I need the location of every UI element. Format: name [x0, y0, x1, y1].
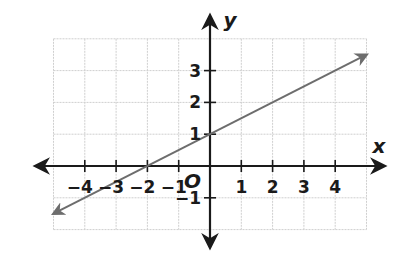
coordinate-plane: −4−3−2−11234−1123Oxy: [0, 0, 403, 255]
x-tick-label: 3: [298, 177, 310, 197]
axes: [36, 16, 384, 247]
x-tick-label: 4: [329, 177, 341, 197]
y-tick-label: 1: [189, 124, 201, 144]
x-tick-label: −3: [98, 177, 124, 197]
x-tick-label: −4: [67, 177, 93, 197]
x-axis-label: x: [372, 134, 387, 158]
y-axis-label: y: [223, 8, 237, 32]
tick-labels: −4−3−2−11234−1123Oxy: [67, 8, 387, 208]
y-tick-label: 3: [189, 61, 201, 81]
y-tick-label: 2: [189, 92, 201, 112]
x-tick-label: −2: [129, 177, 155, 197]
x-tick-label: 2: [267, 177, 279, 197]
origin-label: O: [184, 169, 201, 193]
x-tick-label: 1: [235, 177, 247, 197]
